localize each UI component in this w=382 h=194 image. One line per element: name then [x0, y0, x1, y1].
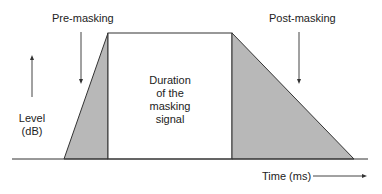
level-label-line-1: Level [19, 112, 45, 124]
duration-label-line-2: of the [156, 87, 184, 99]
post-masking-label: Post-masking [269, 12, 336, 24]
pre-masking-region [64, 33, 108, 159]
time-axis-label: Time (ms) [262, 170, 311, 182]
level-arrowhead-icon [30, 55, 34, 60]
time-arrowhead-icon [362, 174, 367, 178]
duration-label-line-3: masking [150, 100, 191, 112]
post-masking-region [232, 33, 354, 159]
level-label-line-2: (dB) [22, 125, 43, 137]
temporal-masking-diagram: Pre-masking Post-masking Duration of the… [0, 0, 382, 194]
post-masking-arrowhead-icon [297, 79, 301, 84]
pre-masking-label: Pre-masking [52, 12, 114, 24]
duration-label-line-1: Duration [149, 74, 191, 86]
pre-masking-arrowhead-icon [79, 79, 83, 84]
duration-label-line-4: signal [156, 113, 185, 125]
